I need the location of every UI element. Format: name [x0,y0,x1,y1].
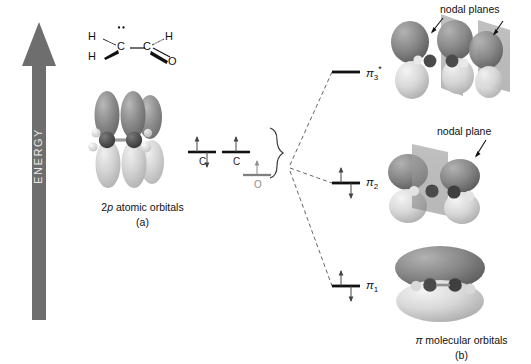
mo-label-pi3: π3* [366,64,382,82]
caption-label-b: (b) [392,348,531,363]
caption-2p-suffix: atomic orbitals [113,201,184,213]
mo-subscript-pi3: 3 [374,73,378,82]
ao-level-C-2 [222,136,250,152]
energy-axis-arrow: ENERGY [22,22,56,320]
grouping-brace [270,128,283,178]
annotation-nodal-plane: nodal plane [437,125,491,137]
left-panel-caption: 2p atomic orbitals (a) [55,200,230,230]
mo-label-pi2: π2 [366,176,378,191]
mo-symbol-pi2: π [366,176,374,188]
mo-subscript-pi2: 2 [374,182,378,191]
correlation-lines [290,72,332,286]
ao-level-O [243,160,271,175]
mo-symbol-pi1: π [366,279,374,291]
mo-diagram-figure: ENERGY H H C C H O [0,0,531,364]
ao-label-C-1: C [199,156,206,167]
formula-atom-C-right: C [143,40,151,52]
mo-superscript-pi3: * [378,64,382,74]
atomic-orbital-render [0,0,531,364]
energy-level-lines [0,0,531,364]
mo-level-pi2 [332,167,360,199]
formula-atom-H-lower-left: H [88,50,96,62]
ao-label-C-2: C [233,156,240,167]
ao-label-O: O [254,179,262,190]
caption-label-a: (a) [55,215,230,230]
formula-atom-H-upper-left: H [88,30,96,42]
formula-atom-H-right: H [165,30,173,42]
energy-axis-label: ENERGY [32,96,44,216]
right-panel-caption: π molecular orbitals (b) [392,333,531,363]
mo-symbol-pi3: π [366,67,374,79]
formula-atom-C-left: C [117,40,125,52]
orbital-render-pi3 [391,14,510,99]
orbital-render-pi2 [388,140,486,224]
annotation-nodal-planes: nodal planes [440,3,500,15]
orbital-render-pi1 [395,246,485,322]
molecular-orbital-renders [0,0,531,364]
formula-atom-O: O [168,55,177,67]
mo-subscript-pi1: 1 [374,285,378,294]
mo-level-pi1 [332,270,360,302]
mo-label-pi1: π1 [366,279,378,294]
skeletal-formula [0,0,531,364]
caption-pi-text: molecular orbitals [422,334,507,346]
